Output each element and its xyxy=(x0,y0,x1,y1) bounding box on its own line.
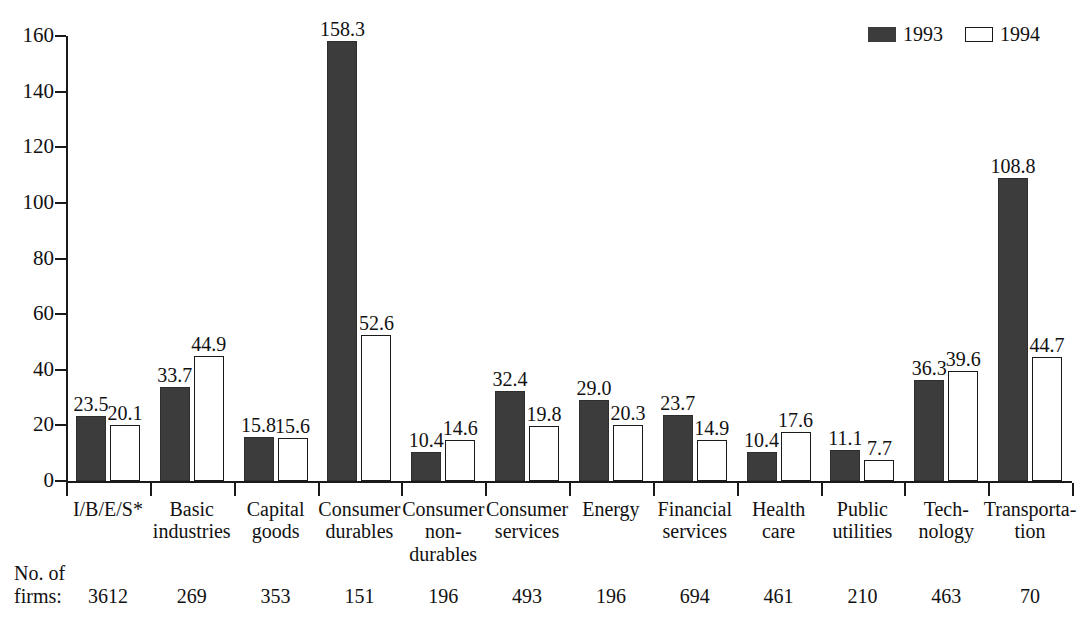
y-tick-40 xyxy=(55,369,66,371)
category-separator-4 xyxy=(401,483,403,496)
bar-value-1994-4: 14.6 xyxy=(432,418,488,438)
y-tick-label-0: 0 xyxy=(4,470,54,491)
firms-value-10: 463 xyxy=(898,586,994,606)
y-tick-label-20: 20 xyxy=(4,414,54,435)
y-tick-120 xyxy=(55,146,66,148)
bar-value-1994-10: 39.6 xyxy=(935,349,991,369)
chart-root: 1993 1994 020406080100120140160 23.520.1… xyxy=(0,0,1087,634)
category-label-5: Consumer services xyxy=(479,498,575,543)
bar-1993-10 xyxy=(914,380,944,481)
y-tick-100 xyxy=(55,202,66,204)
bar-value-1994-11: 44.7 xyxy=(1019,335,1075,355)
category-separator-0 xyxy=(66,483,68,496)
category-label-1: Basic industries xyxy=(144,498,240,543)
firms-value-5: 493 xyxy=(479,586,575,606)
bar-1993-0 xyxy=(76,416,106,481)
bar-1994-3 xyxy=(361,335,391,481)
bar-1994-6 xyxy=(613,425,643,481)
category-separator-8 xyxy=(737,483,739,496)
bar-1993-8 xyxy=(747,452,777,481)
firms-value-6: 196 xyxy=(563,586,659,606)
bar-value-1993-6: 29.0 xyxy=(566,378,622,398)
y-tick-label-60: 60 xyxy=(4,303,54,324)
bar-value-1993-3: 158.3 xyxy=(314,19,370,39)
y-tick-80 xyxy=(55,258,66,260)
bar-value-1993-5: 32.4 xyxy=(482,369,538,389)
bar-1994-2 xyxy=(278,438,308,481)
y-tick-160 xyxy=(55,35,66,37)
category-label-6: Energy xyxy=(563,498,659,520)
category-separator-10 xyxy=(904,483,906,496)
bar-1994-9 xyxy=(864,460,894,481)
category-label-0: I/B/E/S* xyxy=(60,498,156,520)
bar-value-1994-5: 19.8 xyxy=(516,404,572,424)
bar-value-1994-3: 52.6 xyxy=(348,313,404,333)
category-separator-9 xyxy=(821,483,823,496)
category-label-10: Tech- nology xyxy=(898,498,994,543)
bar-1994-8 xyxy=(781,432,811,481)
y-tick-0 xyxy=(55,480,66,482)
bar-1993-4 xyxy=(411,452,441,481)
category-label-8: Health care xyxy=(731,498,827,543)
category-label-3: Consumer durables xyxy=(312,498,408,543)
bar-value-1994-8: 17.6 xyxy=(768,410,824,430)
category-label-7: Financial services xyxy=(647,498,743,543)
firms-value-11: 70 xyxy=(982,586,1078,606)
bar-value-1994-6: 20.3 xyxy=(600,403,656,423)
bar-value-1993-7: 23.7 xyxy=(650,393,706,413)
category-label-11: Transporta- tion xyxy=(982,498,1078,543)
bar-1993-1 xyxy=(160,387,190,481)
bar-1994-4 xyxy=(445,440,475,481)
firms-value-3: 151 xyxy=(312,586,408,606)
firms-value-2: 353 xyxy=(228,586,324,606)
bar-1994-5 xyxy=(529,426,559,481)
firms-value-4: 196 xyxy=(395,586,491,606)
firms-value-1: 269 xyxy=(144,586,240,606)
y-tick-label-40: 40 xyxy=(4,359,54,380)
bar-value-1994-1: 44.9 xyxy=(181,334,237,354)
y-tick-label-100: 100 xyxy=(4,192,54,213)
y-tick-label-160: 160 xyxy=(4,25,54,46)
category-separator-12 xyxy=(1072,483,1074,496)
category-separator-11 xyxy=(988,483,990,496)
category-separator-5 xyxy=(485,483,487,496)
y-tick-60 xyxy=(55,313,66,315)
bar-value-1994-7: 14.9 xyxy=(684,418,740,438)
bar-value-1994-0: 20.1 xyxy=(97,403,153,423)
bar-1993-2 xyxy=(244,437,274,481)
firms-row-caption: No. of firms: xyxy=(14,562,65,608)
y-tick-label-140: 140 xyxy=(4,81,54,102)
category-label-9: Public utilities xyxy=(815,498,911,543)
bar-value-1994-2: 15.6 xyxy=(265,416,321,436)
category-separator-1 xyxy=(150,483,152,496)
y-tick-140 xyxy=(55,91,66,93)
bar-1994-7 xyxy=(697,440,727,481)
firms-value-7: 694 xyxy=(647,586,743,606)
category-label-4: Consumer non- durables xyxy=(395,498,491,565)
category-separator-2 xyxy=(234,483,236,496)
bar-1994-0 xyxy=(110,425,140,481)
bar-1994-11 xyxy=(1032,357,1062,481)
category-label-2: Capital goods xyxy=(228,498,324,543)
bar-1994-1 xyxy=(194,356,224,481)
y-axis-line xyxy=(66,36,68,481)
plot-area: 23.520.133.744.915.815.6158.352.610.414.… xyxy=(66,36,1072,481)
category-separator-3 xyxy=(318,483,320,496)
category-separator-6 xyxy=(569,483,571,496)
firms-value-0: 3612 xyxy=(60,586,156,606)
firms-value-8: 461 xyxy=(731,586,827,606)
y-tick-label-80: 80 xyxy=(4,248,54,269)
y-tick-label-120: 120 xyxy=(4,136,54,157)
bar-1994-10 xyxy=(948,371,978,481)
bar-1993-3 xyxy=(327,41,357,481)
bar-1993-11 xyxy=(998,178,1028,481)
bar-value-1993-11: 108.8 xyxy=(985,156,1041,176)
bar-value-1994-9: 7.7 xyxy=(851,438,907,458)
y-tick-20 xyxy=(55,424,66,426)
category-separator-7 xyxy=(653,483,655,496)
firms-value-9: 210 xyxy=(815,586,911,606)
